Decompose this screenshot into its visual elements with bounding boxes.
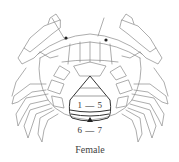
right-eye [104, 38, 107, 41]
left-claw-upper [24, 20, 60, 52]
crab-illustration: 1 — 5 6 — 7 Female [0, 0, 179, 162]
abdomen-segments-6-7-label: 6 — 7 [70, 125, 110, 135]
body-outline [39, 58, 141, 120]
abdomen-segments-1-5-label: 1 — 5 [74, 100, 106, 110]
right-claw-upper [120, 20, 156, 52]
crab-drawing [0, 0, 179, 162]
abdomen-flap [69, 76, 110, 121]
figure-caption: Female [50, 144, 130, 155]
left-eye [64, 36, 67, 39]
left-claw-arm [18, 48, 40, 64]
right-claw-arm [140, 48, 162, 64]
